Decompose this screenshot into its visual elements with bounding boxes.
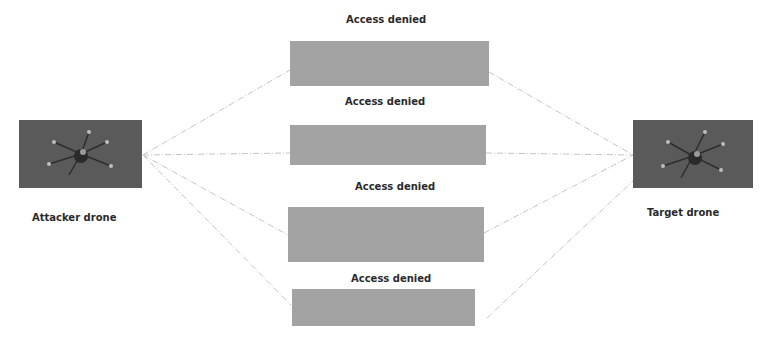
- connector-attacker-channel-3: [143, 155, 288, 235]
- channel-3-label: Access denied: [355, 181, 435, 192]
- attacker-drone-image: [19, 120, 142, 188]
- connector-attacker-channel-1: [143, 70, 290, 155]
- channel-3-box: [288, 207, 484, 262]
- channel-2-label: Access denied: [345, 96, 425, 107]
- connector-channel-4-target: [487, 180, 634, 318]
- connector-channel-2-target: [486, 153, 633, 155]
- connector-attacker-channel-4: [143, 155, 291, 305]
- connector-channel-1-target: [489, 72, 633, 155]
- channel-1-box: [290, 41, 489, 86]
- channel-4-box: [292, 289, 475, 326]
- connector-channel-3-target: [484, 155, 633, 233]
- target-drone-image: [633, 120, 753, 188]
- drone-icon: [633, 120, 753, 188]
- channel-2-box: [290, 125, 486, 165]
- target-drone-label: Target drone: [647, 207, 719, 218]
- channel-4-label: Access denied: [351, 273, 431, 284]
- connector-attacker-channel-2: [143, 153, 290, 155]
- attacker-drone-label: Attacker drone: [32, 212, 116, 223]
- drone-icon: [19, 120, 142, 188]
- channel-1-label: Access denied: [346, 14, 426, 25]
